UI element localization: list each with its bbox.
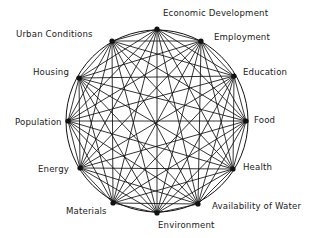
node-health (230, 166, 235, 171)
label-urban-conditions: Urban Conditions (16, 29, 93, 39)
edge-education-housing (79, 76, 234, 78)
edge-employment-population (68, 41, 201, 121)
edge-population-urban-conditions (68, 41, 112, 121)
edge-economic-development-urban-conditions (112, 29, 157, 41)
edge-availability-of-water-materials (113, 203, 198, 204)
node-environment (154, 210, 159, 215)
edge-materials-urban-conditions (112, 41, 113, 203)
label-housing: Housing (33, 67, 69, 77)
edge-environment-materials (113, 203, 157, 213)
edge-economic-development-employment (157, 29, 201, 41)
label-health: Health (243, 162, 272, 172)
edge-energy-urban-conditions (80, 41, 112, 168)
interconnection-diagram: Economic DevelopmentEmploymentEducationF… (0, 0, 318, 238)
node-education (231, 73, 236, 78)
connection-lines (68, 29, 246, 213)
node-food (243, 118, 248, 123)
edge-energy-population (68, 121, 80, 168)
node-availability-of-water (195, 201, 200, 206)
label-environment: Environment (158, 220, 215, 230)
node-population (65, 118, 70, 123)
node-energy (77, 165, 82, 170)
edge-materials-population (68, 121, 113, 203)
node-urban-conditions (109, 38, 114, 43)
label-materials: Materials (66, 206, 107, 216)
label-employment: Employment (214, 32, 270, 42)
label-availability-of-water: Availability of Water (212, 201, 301, 211)
label-education: Education (243, 67, 287, 77)
label-economic-development: Economic Development (163, 8, 268, 18)
edge-education-health (233, 76, 234, 169)
label-energy: Energy (38, 164, 69, 174)
edge-availability-of-water-environment (157, 204, 198, 213)
node-employment (198, 38, 203, 43)
label-food: Food (254, 115, 275, 125)
node-economic-development (154, 26, 159, 31)
node-materials (110, 200, 115, 205)
label-population: Population (15, 117, 62, 127)
edge-energy-housing (79, 78, 80, 168)
node-housing (76, 75, 81, 80)
edge-environment-housing (79, 78, 157, 213)
edge-availability-of-water-energy (80, 168, 198, 204)
edge-health-urban-conditions (112, 41, 233, 169)
edge-health-energy (80, 168, 233, 169)
